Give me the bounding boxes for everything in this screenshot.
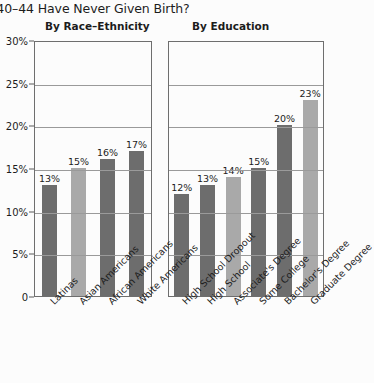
- bar-item: 15%: [71, 42, 86, 296]
- plot-area-race: 13%15%16%17%: [34, 41, 152, 297]
- gridline: [169, 213, 323, 214]
- bar-item: 13%: [42, 42, 57, 296]
- chart-title: s 40–44 Have Never Given Birth?: [0, 1, 190, 16]
- gridline: [169, 85, 323, 86]
- gridline: [35, 127, 151, 128]
- panel-header-education: By Education: [192, 20, 269, 32]
- bar-value-label: 15%: [248, 156, 269, 167]
- gridline: [35, 85, 151, 86]
- gridline: [35, 213, 151, 214]
- bar-value-label: 15%: [68, 156, 89, 167]
- y-axis: 30%25%20%15%10%5%0: [0, 41, 34, 297]
- bar-value-label: 13%: [39, 173, 60, 184]
- bar-item: 15%: [251, 42, 266, 296]
- gridline: [169, 127, 323, 128]
- bar-value-label: 16%: [97, 147, 118, 158]
- gridline: [169, 170, 323, 171]
- gridline: [35, 170, 151, 171]
- bar: [42, 185, 57, 296]
- bar-value-label: 23%: [300, 88, 321, 99]
- bar-value-label: 20%: [274, 113, 295, 124]
- bar-value-label: 17%: [126, 139, 147, 150]
- bar: [174, 194, 189, 296]
- panel-header-race: By Race–Ethnicity: [45, 20, 150, 32]
- bar-value-label: 12%: [171, 182, 192, 193]
- bar-item: 13%: [200, 42, 215, 296]
- bar-item: 16%: [100, 42, 115, 296]
- category-labels: LatinasAsian AmericansAfrican AmericansW…: [0, 299, 322, 383]
- bar-value-label: 13%: [197, 173, 218, 184]
